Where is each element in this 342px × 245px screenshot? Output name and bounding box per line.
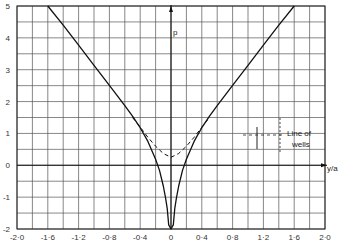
svg-text:-2: -2 xyxy=(3,225,11,234)
svg-text:2: 2 xyxy=(6,98,11,107)
svg-text:-1·6: -1·6 xyxy=(41,233,56,242)
svg-text:-2·0: -2·0 xyxy=(10,233,25,242)
svg-text:0·8: 0·8 xyxy=(227,233,239,242)
x-axis-label: y/a xyxy=(327,164,338,173)
svg-text:5: 5 xyxy=(6,2,11,11)
chart: -2·0-1·6-1·2-0·8-0·400·40·81·21·62·05432… xyxy=(0,0,342,245)
svg-text:-1·2: -1·2 xyxy=(71,233,86,242)
svg-text:1·2: 1·2 xyxy=(258,233,270,242)
svg-text:4: 4 xyxy=(6,34,11,43)
svg-text:-0·8: -0·8 xyxy=(102,233,117,242)
annotation-line-of: Line of xyxy=(287,129,312,138)
svg-text:-0·4: -0·4 xyxy=(133,233,148,242)
arrow-up-icon xyxy=(169,6,173,12)
svg-text:2·0: 2·0 xyxy=(319,233,331,242)
svg-text:0: 0 xyxy=(6,161,11,170)
svg-text:-1: -1 xyxy=(3,193,11,202)
annotation-wells: wells xyxy=(291,140,310,149)
y-axis-label: p xyxy=(173,28,178,37)
svg-text:1: 1 xyxy=(6,129,11,138)
svg-text:0: 0 xyxy=(169,233,174,242)
svg-text:0·4: 0·4 xyxy=(196,233,208,242)
svg-text:1·6: 1·6 xyxy=(288,233,300,242)
svg-text:3: 3 xyxy=(6,66,11,75)
